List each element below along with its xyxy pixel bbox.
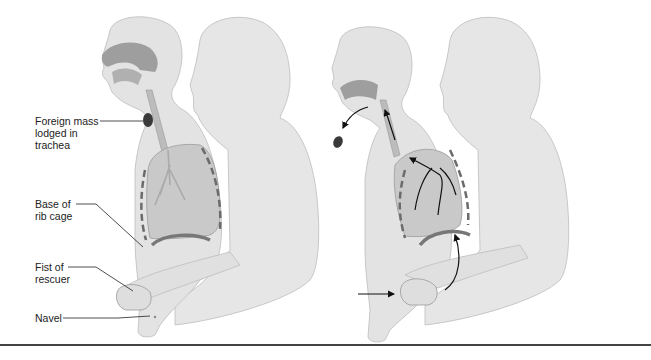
- heimlich-illustration: [0, 0, 651, 360]
- rescuer-fist: [116, 285, 151, 310]
- lungs: [394, 149, 462, 236]
- rescuer-fist: [400, 279, 437, 305]
- lungs: [147, 144, 220, 238]
- label-fist: Fist of rescuer: [35, 261, 70, 285]
- label-foreign-mass: Foreign mass lodged in trachea: [35, 115, 99, 151]
- label-rib-cage: Base of rib cage: [35, 198, 72, 222]
- label-navel: Navel: [35, 312, 62, 324]
- expelled-mass: [331, 135, 344, 150]
- foreign-mass: [143, 113, 153, 127]
- bottom-rule: [0, 344, 651, 346]
- panel-before: [102, 17, 319, 337]
